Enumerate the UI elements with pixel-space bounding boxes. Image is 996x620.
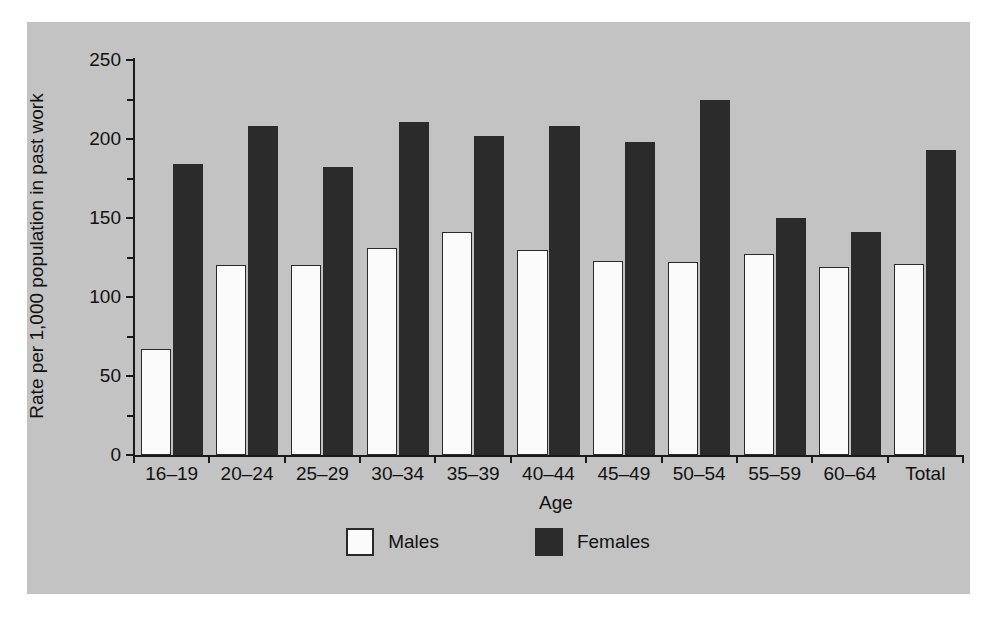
x-category-label: 60–64 xyxy=(812,463,887,485)
x-category-label: 16–19 xyxy=(134,463,209,485)
legend-item-females: Females xyxy=(535,528,650,556)
plot-area xyxy=(134,60,963,455)
x-category-label: 40–44 xyxy=(511,463,586,485)
x-category-label: 30–34 xyxy=(360,463,435,485)
bar-males xyxy=(894,264,924,455)
bar-males xyxy=(141,349,171,455)
x-tick-mark xyxy=(284,455,286,463)
y-axis-title: Rate per 1,000 population in past work xyxy=(26,56,48,456)
y-tick-mark xyxy=(126,138,134,140)
x-axis-title: Age xyxy=(0,492,996,514)
x-category-label: 35–39 xyxy=(435,463,510,485)
bar-females xyxy=(700,100,730,456)
bar-males xyxy=(744,254,774,455)
x-tick-mark xyxy=(133,455,135,463)
x-category-label: 20–24 xyxy=(209,463,284,485)
y-tick-mark xyxy=(126,59,134,61)
figure: Rate per 1,000 population in past work 0… xyxy=(0,0,996,620)
bar-females xyxy=(399,122,429,455)
x-tick-mark xyxy=(359,455,361,463)
bar-males xyxy=(668,262,698,455)
y-axis-tick-labels: 050100150200250 xyxy=(55,0,121,620)
y-tick-mark xyxy=(126,296,134,298)
bar-females xyxy=(474,136,504,455)
bar-males xyxy=(442,232,472,455)
y-minor-tick-mark xyxy=(127,415,134,417)
y-tick-label: 100 xyxy=(61,287,121,306)
bar-females xyxy=(248,126,278,455)
chart-legend: Males Females xyxy=(0,528,996,556)
y-tick-label: 50 xyxy=(61,366,121,385)
black-square-swatch-icon xyxy=(535,528,563,556)
x-category-label: Total xyxy=(888,463,963,485)
y-minor-tick-mark xyxy=(127,257,134,259)
bar-females xyxy=(549,126,579,455)
y-tick-mark xyxy=(126,217,134,219)
bar-females xyxy=(173,164,203,455)
y-tick-label: 200 xyxy=(61,129,121,148)
legend-label-females: Females xyxy=(577,531,650,553)
x-tick-mark xyxy=(434,455,436,463)
y-tick-label: 0 xyxy=(61,445,121,464)
y-minor-tick-mark xyxy=(127,99,134,101)
bar-males xyxy=(216,265,246,455)
x-category-label: 50–54 xyxy=(662,463,737,485)
x-category-label: 45–49 xyxy=(586,463,661,485)
x-category-label: 55–59 xyxy=(737,463,812,485)
y-tick-label: 250 xyxy=(61,50,121,69)
x-tick-mark xyxy=(736,455,738,463)
x-tick-mark xyxy=(661,455,663,463)
y-minor-tick-mark xyxy=(127,336,134,338)
white-square-swatch-icon xyxy=(346,528,374,556)
bar-females xyxy=(625,142,655,455)
bar-females xyxy=(776,218,806,455)
bar-females xyxy=(323,167,353,455)
bar-females xyxy=(926,150,956,455)
bar-males xyxy=(517,250,547,455)
bar-males xyxy=(819,267,849,455)
x-tick-mark xyxy=(585,455,587,463)
bar-males xyxy=(593,261,623,455)
x-tick-mark xyxy=(962,455,964,463)
x-tick-mark xyxy=(811,455,813,463)
y-tick-label: 150 xyxy=(61,208,121,227)
x-axis-line xyxy=(133,455,964,457)
x-tick-mark xyxy=(887,455,889,463)
bar-females xyxy=(851,232,881,455)
x-tick-mark xyxy=(208,455,210,463)
x-tick-mark xyxy=(510,455,512,463)
legend-item-males: Males xyxy=(346,528,439,556)
y-tick-mark xyxy=(126,375,134,377)
bar-males xyxy=(291,265,321,455)
bar-males xyxy=(367,248,397,455)
x-category-label: 25–29 xyxy=(285,463,360,485)
x-axis-title-text: Age xyxy=(539,492,573,513)
legend-label-males: Males xyxy=(388,531,439,553)
y-minor-tick-mark xyxy=(127,178,134,180)
